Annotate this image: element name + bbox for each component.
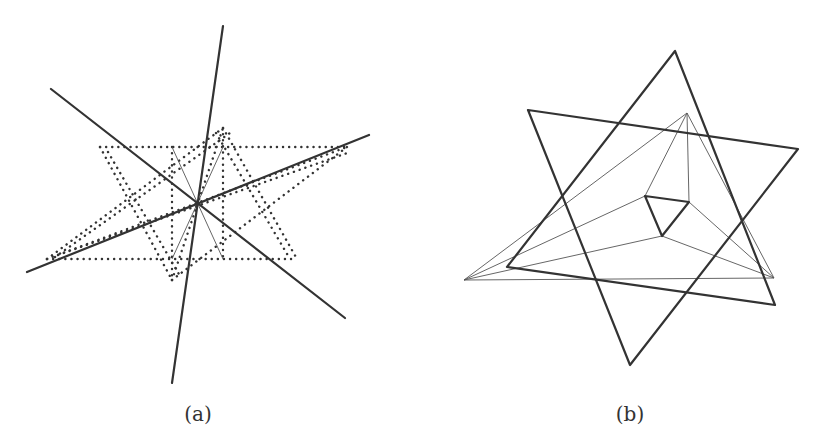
thick-triangle xyxy=(528,110,798,365)
dotted-line xyxy=(100,147,172,280)
thin-line xyxy=(687,113,689,202)
label-a: (a) xyxy=(184,402,212,426)
diagram-b-star-of-triangles xyxy=(464,51,798,365)
diagram-b-inner-triangle xyxy=(645,196,689,236)
thick-triangle xyxy=(507,51,775,305)
figure-canvas xyxy=(0,0,823,448)
dotted-line xyxy=(58,152,350,255)
diagram-b-thick-triangles xyxy=(507,51,798,365)
dotted-line xyxy=(55,133,230,257)
thin-line xyxy=(464,278,774,280)
dotted-line xyxy=(216,133,290,259)
thin-line xyxy=(464,196,645,280)
diagram-a-thick-lines xyxy=(27,26,369,383)
diagram-a-line-arrangement xyxy=(27,26,369,383)
thin-line xyxy=(645,113,687,196)
inner-triangle xyxy=(645,196,689,236)
label-b: (b) xyxy=(616,402,644,426)
dotted-line xyxy=(172,147,347,280)
thick-line xyxy=(27,135,369,272)
thin-line xyxy=(689,202,774,278)
